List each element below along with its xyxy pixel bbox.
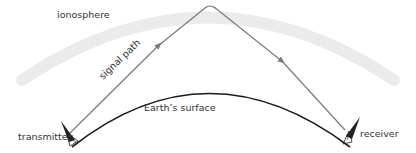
transmitter-label: transmitter [18, 131, 72, 142]
signal-path-down-cont [281, 60, 345, 130]
earth-surface-label: Earth’s surface [144, 102, 216, 113]
receiver-antenna-icon [343, 117, 360, 144]
ionosphere-label: ionosphere [57, 9, 110, 20]
ionospheric-propagation-diagram: ionosphere signal path Earth’s surface t… [0, 0, 416, 153]
receiver-label: receiver [360, 128, 399, 139]
ionosphere-band [22, 18, 394, 81]
